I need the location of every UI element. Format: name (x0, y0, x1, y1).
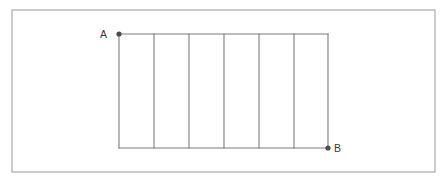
figure-canvas: A B (0, 0, 447, 183)
point-b-label: B (334, 142, 341, 154)
point-b-dot (325, 145, 330, 150)
diagram-svg: A B (0, 0, 447, 183)
point-a-dot (116, 31, 121, 36)
point-a-label: A (100, 28, 107, 40)
